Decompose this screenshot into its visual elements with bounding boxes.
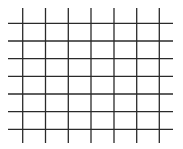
grid-diagram [0, 0, 183, 149]
vertical-lines [23, 8, 160, 143]
grid-lines [0, 0, 183, 149]
